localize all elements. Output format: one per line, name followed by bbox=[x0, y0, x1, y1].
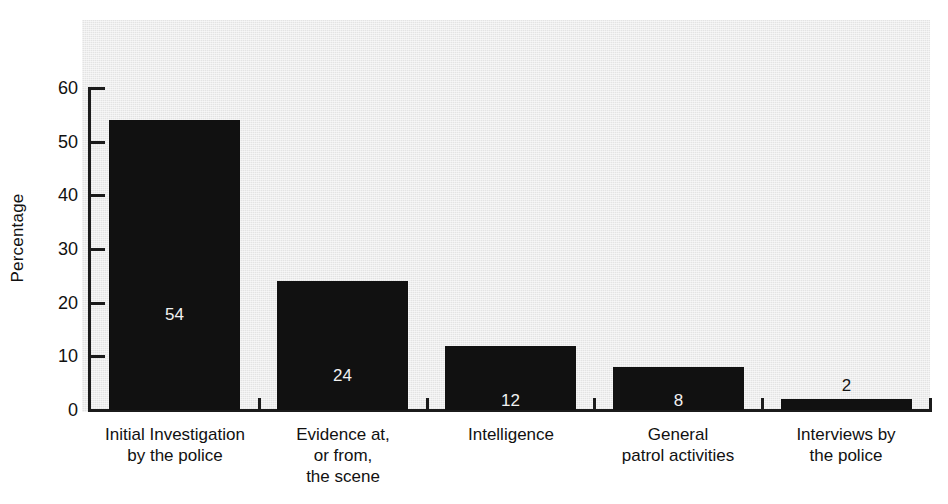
x-category-label-line: Interviews by bbox=[746, 424, 946, 445]
bar-value-label: 12 bbox=[445, 392, 576, 409]
bar-value-label: 2 bbox=[781, 377, 912, 394]
y-axis-title: Percentage bbox=[8, 178, 28, 298]
x-tick-mark bbox=[761, 398, 764, 410]
y-tick-mark bbox=[88, 87, 105, 90]
bar bbox=[781, 399, 912, 410]
x-tick-mark bbox=[929, 398, 932, 410]
y-tick-label: 20 bbox=[34, 294, 78, 312]
y-tick-label: 0 bbox=[34, 401, 78, 419]
bar-value-label: 24 bbox=[277, 367, 408, 384]
y-tick-label: 40 bbox=[34, 186, 78, 204]
bar bbox=[109, 120, 240, 410]
y-tick-mark bbox=[88, 355, 105, 358]
y-tick-mark bbox=[88, 248, 105, 251]
y-tick-mark bbox=[88, 302, 105, 305]
x-category-label-line: or from, bbox=[243, 445, 443, 466]
x-tick-mark bbox=[258, 398, 261, 410]
bar-chart-figure: Percentage 0102030405060 54241282 Initia… bbox=[0, 0, 948, 504]
x-tick-mark bbox=[426, 398, 429, 410]
y-tick-label: 30 bbox=[34, 240, 78, 258]
bar bbox=[277, 281, 408, 410]
bar-value-label: 8 bbox=[613, 392, 744, 409]
y-tick-label: 10 bbox=[34, 347, 78, 365]
bar-value-label: 54 bbox=[109, 306, 240, 323]
y-tick-label: 60 bbox=[34, 79, 78, 97]
x-category-label-line: the police bbox=[746, 445, 946, 466]
x-tick-mark bbox=[593, 398, 596, 410]
y-tick-label: 50 bbox=[34, 133, 78, 151]
y-tick-mark bbox=[88, 409, 105, 412]
y-tick-mark bbox=[88, 194, 105, 197]
y-tick-mark bbox=[88, 141, 105, 144]
x-category-label-line: the scene bbox=[243, 466, 443, 487]
x-category-label: Interviews bythe police bbox=[746, 424, 946, 466]
